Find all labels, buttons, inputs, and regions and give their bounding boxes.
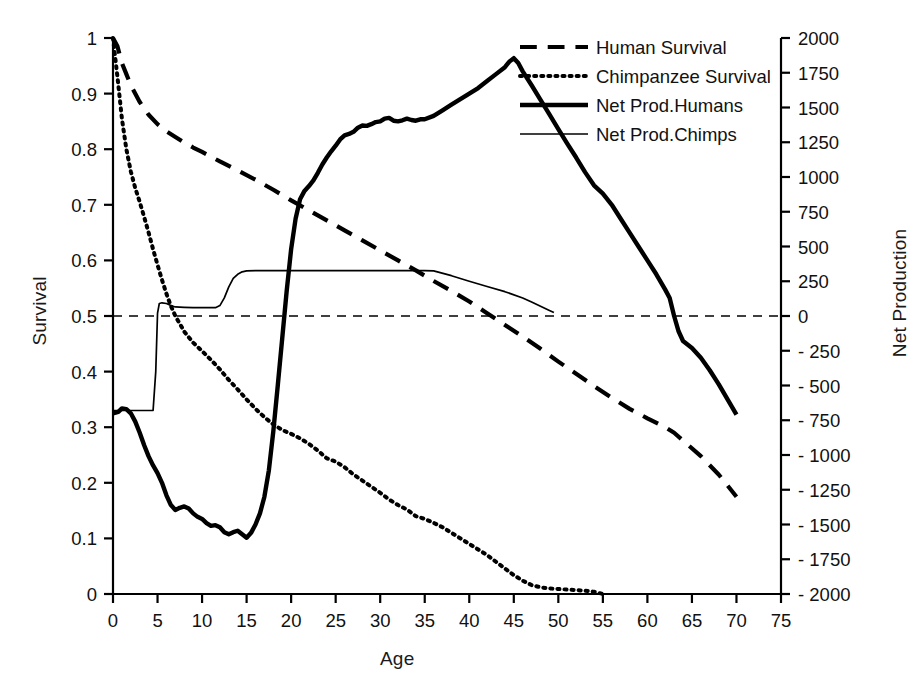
- legend-label: Chimpanzee Survival: [596, 66, 771, 87]
- y-tick-label-right: 0: [798, 306, 808, 327]
- x-tick-label: 60: [637, 610, 658, 631]
- y-tick-label-left: 0.6: [71, 250, 97, 271]
- y-tick-label-right: - 1250: [798, 480, 850, 501]
- y-tick-label-left: 0.9: [71, 84, 97, 105]
- x-tick-label: 65: [682, 610, 703, 631]
- tick-labels-group: 05101520253035404550556065707500.10.20.3…: [71, 28, 850, 631]
- x-tick-label: 15: [236, 610, 257, 631]
- x-tick-label: 55: [593, 610, 614, 631]
- y-tick-label-right: 500: [798, 237, 829, 258]
- legend-label: Net Prod.Humans: [596, 95, 743, 116]
- y-tick-label-right: - 1000: [798, 445, 850, 466]
- y-tick-label-right: - 1500: [798, 515, 850, 536]
- y-tick-label-left: 0.5: [71, 306, 97, 327]
- series-line: [113, 271, 554, 411]
- x-tick-label: 30: [370, 610, 391, 631]
- x-axis-label: Age: [380, 648, 414, 670]
- x-tick-label: 20: [281, 610, 302, 631]
- y-tick-label-right: - 1750: [798, 549, 850, 570]
- x-tick-label: 25: [325, 610, 346, 631]
- y-tick-label-left: 1: [87, 28, 97, 49]
- y-tick-label-right: - 2000: [798, 584, 850, 605]
- y-tick-label-right: - 500: [798, 376, 840, 397]
- x-tick-label: 35: [414, 610, 435, 631]
- y-tick-label-right: 250: [798, 271, 829, 292]
- y-tick-label-right: - 750: [798, 410, 840, 431]
- x-tick-label: 40: [459, 610, 480, 631]
- legend-label: Human Survival: [596, 37, 727, 58]
- x-tick-label: 5: [152, 610, 162, 631]
- axes-group: [104, 38, 790, 603]
- y-tick-label-left: 0.1: [71, 528, 97, 549]
- x-tick-label: 0: [108, 610, 118, 631]
- y-tick-label-left: 0: [87, 584, 97, 605]
- y-tick-label-left: 0.8: [71, 139, 97, 160]
- x-tick-label: 70: [726, 610, 747, 631]
- y-tick-label-right: 1000: [798, 167, 839, 188]
- chart-figure: 05101520253035404550556065707500.10.20.3…: [0, 0, 919, 689]
- y-tick-label-left: 0.2: [71, 473, 97, 494]
- y-axis-label-right: Net Production: [889, 203, 911, 383]
- y-tick-label-right: - 250: [798, 341, 840, 362]
- chart-plot-area: 05101520253035404550556065707500.10.20.3…: [0, 0, 919, 689]
- y-tick-label-right: 1500: [798, 98, 839, 119]
- legend-label: Net Prod.Chimps: [596, 124, 737, 145]
- y-tick-label-right: 1750: [798, 63, 839, 84]
- x-tick-label: 10: [192, 610, 213, 631]
- y-tick-label-left: 0.3: [71, 417, 97, 438]
- y-tick-label-right: 750: [798, 202, 829, 223]
- y-tick-label-right: 1250: [798, 132, 839, 153]
- x-tick-label: 75: [771, 610, 792, 631]
- y-tick-label-right: 2000: [798, 28, 839, 49]
- y-axis-label-left: Survival: [29, 231, 51, 391]
- x-tick-label: 50: [548, 610, 569, 631]
- y-tick-label-left: 0.4: [71, 362, 97, 383]
- x-tick-label: 45: [504, 610, 525, 631]
- y-tick-label-left: 0.7: [71, 195, 97, 216]
